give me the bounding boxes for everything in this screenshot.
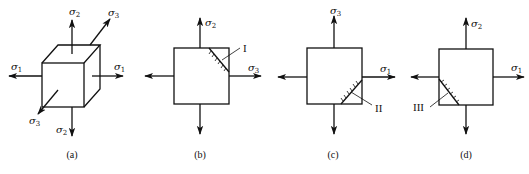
- inclined-plane-III: [439, 79, 459, 105]
- arrow-sigma3-front: [38, 90, 58, 114]
- caption-a: (a): [66, 149, 77, 161]
- stress-state-diagram: σ2 σ3 σ1 σ1 σ3 σ2 (a) I σ2 σ3 (b): [0, 0, 529, 174]
- label-sigma1-right: σ1: [380, 63, 391, 76]
- plane-label-II: II: [375, 102, 383, 114]
- label-sigma1-right: σ1: [511, 62, 522, 75]
- caption-c: (c): [327, 149, 338, 161]
- label-sigma3-top: σ3: [330, 5, 341, 18]
- panel-c: II σ3 σ1 (c): [278, 5, 395, 161]
- cube: [42, 45, 100, 107]
- caption-b: (b): [194, 149, 206, 161]
- leader-line-I: [222, 48, 240, 60]
- element-square: [174, 48, 229, 104]
- label-sigma3-right: σ3: [248, 62, 259, 75]
- element-square: [307, 48, 362, 104]
- element-square: [439, 49, 493, 105]
- label-sigma3-back: σ3: [108, 7, 119, 20]
- plane-label-I: I: [243, 42, 247, 54]
- label-sigma3-front: σ3: [29, 115, 40, 128]
- label-sigma1-left: σ1: [11, 61, 22, 74]
- plane-label-III: III: [413, 101, 424, 113]
- arrow-sigma3-back: [90, 19, 110, 45]
- panel-a: σ2 σ3 σ1 σ1 σ3 σ2 (a): [9, 6, 125, 161]
- caption-d: (d): [460, 149, 472, 161]
- inclined-plane-I: [209, 48, 229, 72]
- label-sigma2-top: σ2: [205, 17, 216, 30]
- panel-d: III σ2 σ1 (d): [411, 18, 524, 161]
- label-sigma2-top: σ2: [69, 6, 80, 19]
- panel-b: I σ2 σ3 (b): [145, 17, 261, 161]
- label-sigma1-right: σ1: [114, 61, 125, 74]
- label-sigma2-bottom: σ2: [56, 124, 67, 137]
- label-sigma2-top: σ2: [471, 18, 482, 31]
